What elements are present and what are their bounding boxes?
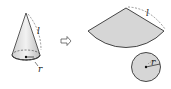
cone-slant-label: l	[37, 26, 40, 36]
base-radius-label: r	[151, 57, 156, 67]
unfolded-sector: l	[88, 7, 165, 48]
transform-arrow-icon	[61, 37, 71, 46]
cone-unfolding-diagram: l r l r	[0, 0, 171, 89]
cone: l r	[12, 13, 43, 74]
sector-slant-label: l	[146, 8, 149, 18]
cone-radius-label: r	[38, 64, 43, 74]
cone-center-dot	[25, 56, 27, 58]
base-circle: r	[132, 53, 161, 82]
base-center-dot	[145, 66, 147, 68]
